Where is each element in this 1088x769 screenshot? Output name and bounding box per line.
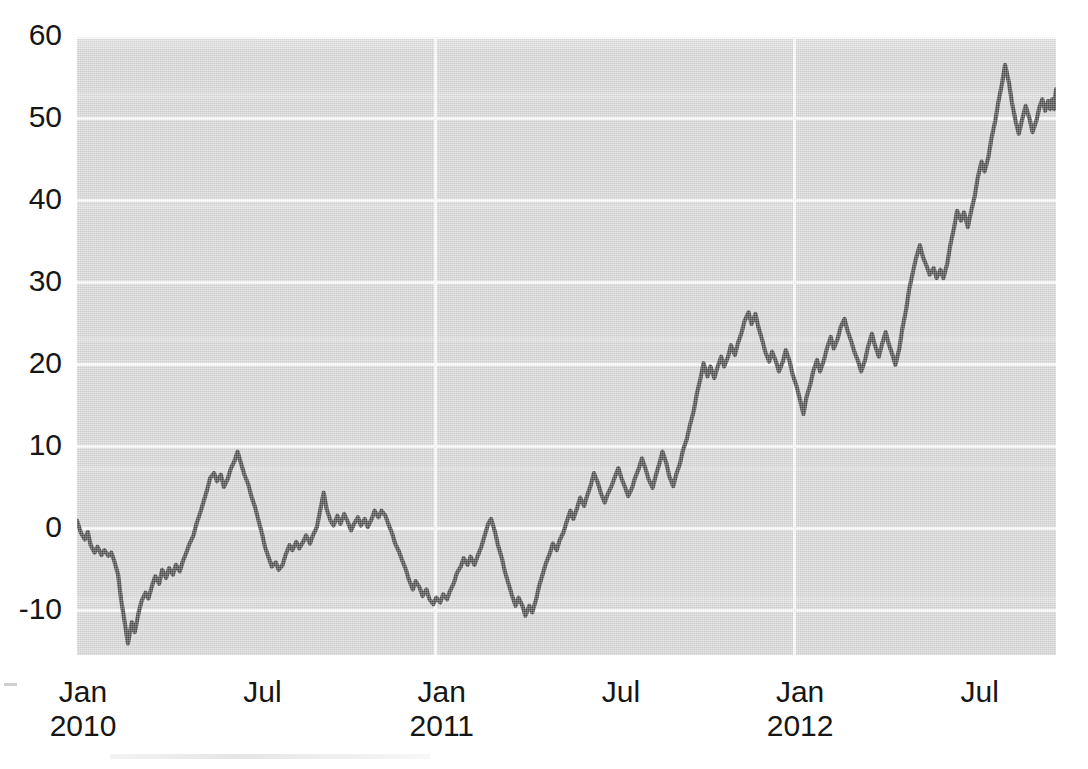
- x-tick-year: 2010: [50, 709, 117, 743]
- y-tick-text: 20: [0, 348, 62, 378]
- x-tick-month: Jan: [767, 675, 834, 709]
- y-tick-text: 10: [0, 430, 62, 460]
- scan-artifact-left: [4, 683, 17, 686]
- x-tick-month: Jul: [602, 675, 640, 709]
- y-axis-tick-label: 50: [0, 102, 62, 132]
- plot-area: [77, 37, 1056, 655]
- y-tick-text: 30: [0, 266, 62, 296]
- y-axis-tick-label: 10: [0, 430, 62, 460]
- y-axis-tick-label: 60: [0, 20, 62, 50]
- y-axis-tick-label: 0: [0, 512, 62, 542]
- x-axis-tick-label: Jul: [602, 675, 640, 709]
- x-tick-month: Jan: [410, 675, 475, 709]
- y-tick-text: 0: [0, 512, 62, 542]
- y-axis-tick-label: 40: [0, 184, 62, 214]
- y-axis-tick-label: 20: [0, 348, 62, 378]
- x-axis-tick-label: Jan2010: [50, 675, 117, 742]
- y-axis-tick-label: 30: [0, 266, 62, 296]
- chart-figure: 6050403020100-10 Jan2010JulJan2011JulJan…: [0, 0, 1088, 769]
- series-layer: [77, 37, 1056, 655]
- series-line-1: [77, 65, 1056, 644]
- y-tick-text: 60: [0, 20, 62, 50]
- scan-artifact-bottom: [110, 754, 430, 759]
- x-axis-tick-label: Jul: [961, 675, 999, 709]
- x-tick-month: Jul: [243, 675, 281, 709]
- y-tick-text: -10: [0, 594, 62, 624]
- x-tick-year: 2011: [410, 709, 475, 743]
- x-tick-year: 2012: [767, 709, 834, 743]
- y-axis-tick-label: -10: [0, 594, 62, 624]
- x-tick-month: Jul: [961, 675, 999, 709]
- x-axis-tick-label: Jul: [243, 675, 281, 709]
- x-tick-month: Jan: [50, 675, 117, 709]
- y-tick-text: 40: [0, 184, 62, 214]
- y-tick-text: 50: [0, 102, 62, 132]
- x-axis-tick-label: Jan2012: [767, 675, 834, 742]
- x-axis-tick-label: Jan2011: [410, 675, 475, 742]
